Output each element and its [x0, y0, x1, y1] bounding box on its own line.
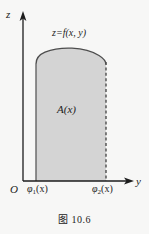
surface-equation-label: z=f(x, y) [52, 28, 86, 38]
area-function-label: A(x) [57, 104, 76, 115]
lower-bound-argument: (x) [36, 183, 48, 194]
z-axis-label: z [6, 9, 10, 20]
lower-bound-label: φ1(x) [27, 184, 48, 196]
figure-caption: 图 10.6 [0, 211, 149, 226]
origin-label: O [10, 184, 18, 195]
upper-bound-argument: (x) [101, 183, 113, 194]
upper-bound-label: φ2(x) [92, 184, 113, 196]
y-axis-label: y [136, 176, 141, 187]
figure-container: z y O z=f(x, y) A(x) φ1(x) φ2(x) 图 10.6 [0, 0, 149, 234]
